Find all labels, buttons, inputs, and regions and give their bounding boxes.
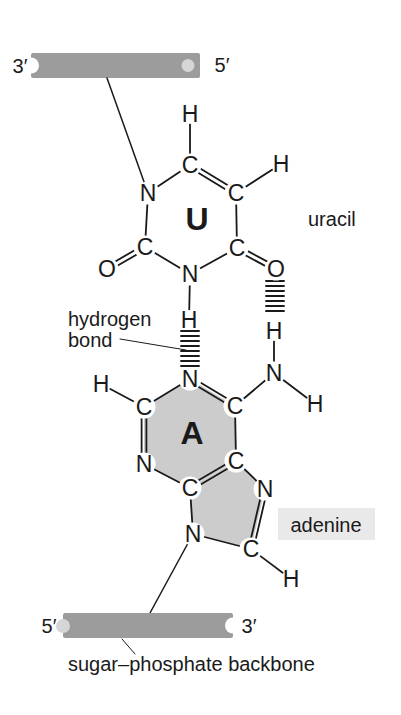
atom-u-h6: H — [273, 151, 290, 177]
hydrogen-bond-label-group: hydrogen bond — [68, 308, 151, 351]
atom-a-h8: H — [283, 566, 300, 592]
bottom-backbone-socket — [56, 619, 70, 633]
atom-a-hb: H — [307, 391, 324, 417]
atom-a-c8: C — [243, 536, 260, 562]
bottom-backbone-left-end-label: 5′ — [42, 615, 57, 637]
atom-u-c5: C — [182, 152, 199, 178]
atom-u-c2: C — [137, 234, 154, 260]
hbond-label-pointer — [120, 339, 186, 350]
atom-a-ha: H — [266, 318, 283, 344]
top-backbone-bar — [31, 53, 200, 78]
atom-a-c5: C — [228, 448, 245, 474]
base-pair-diagram: 3′ 5′ HCHCNCONCOHHNHNHCCNCCNNCHUA 5′ 3′ … — [0, 0, 401, 715]
hydrogen-bond-label-line1: hydrogen — [68, 308, 151, 330]
atom-u-c6: C — [228, 180, 245, 206]
atom-a-c6: C — [227, 393, 244, 419]
top-backbone: 3′ 5′ — [13, 53, 230, 78]
adenine-label: adenine — [290, 514, 361, 536]
atom-a-n3: N — [136, 451, 153, 477]
atom-u-n3: N — [182, 261, 199, 287]
atom-a-n1: N — [182, 366, 199, 392]
uracil-label: uracil — [308, 208, 356, 230]
backbone-caption-pointer — [122, 639, 135, 654]
top-backbone-right-end-label: 5′ — [215, 54, 230, 76]
bottom-backbone-right-end-label: 3′ — [242, 615, 257, 637]
bottom-backbone: 5′ 3′ sugar–phosphate backbone — [42, 613, 315, 675]
atom-a-c2: C — [136, 394, 153, 420]
hydrogen-bond-label-line2: bond — [68, 329, 113, 351]
atom-a-n7: N — [257, 476, 274, 502]
atom-a-h2: H — [93, 371, 110, 397]
atom-u-n1: N — [140, 180, 157, 206]
top-backbone-left-end-label: 3′ — [13, 55, 28, 77]
adenine-label-group: adenine — [278, 508, 375, 540]
atom-a-n9: N — [185, 521, 202, 547]
sugar-phosphate-backbone-caption: sugar–phosphate backbone — [68, 653, 315, 675]
atom-a-n6: N — [266, 360, 283, 386]
atom-u-h5: H — [182, 101, 199, 127]
atom-a-c4: C — [182, 475, 199, 501]
ring-letter-U: U — [185, 201, 208, 237]
uracil-to-top-backbone-connector — [107, 78, 148, 193]
ring-letter-A: A — [180, 415, 203, 451]
atom-u-c4: C — [229, 235, 246, 261]
atom-u-o2: O — [98, 256, 116, 282]
top-backbone-socket — [182, 59, 195, 72]
bottom-backbone-bar — [63, 613, 233, 638]
atom-u-o4: O — [267, 256, 285, 282]
atom-u-h3: H — [181, 307, 198, 333]
diagram-svg: 3′ 5′ HCHCNCONCOHHNHNHCCNCCNNCHUA 5′ 3′ … — [0, 0, 401, 715]
bottom-backbone-notch — [225, 618, 241, 634]
